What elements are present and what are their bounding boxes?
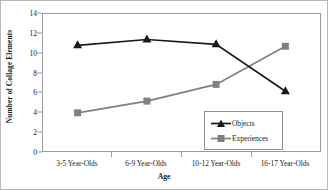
y-tick-label-10: 10: [19, 48, 37, 57]
y-tick-label-4: 4: [19, 108, 37, 117]
series-line-experiences: [78, 46, 286, 113]
y-tick-label-12: 12: [19, 28, 37, 37]
data-point-objects-3: [281, 86, 290, 94]
line-chart-figure: Number of Collage Elements 0 2 4 6 8 10 …: [0, 0, 328, 190]
data-point-experiences-2: [213, 81, 220, 88]
y-axis-title-text: Number of Collage Elements: [6, 29, 15, 122]
data-point-objects-1: [142, 35, 151, 43]
x-tick-mark-2: [181, 152, 182, 157]
data-point-experiences-0: [74, 109, 81, 116]
y-tick-label-0: 0: [19, 148, 37, 157]
legend-label-objects: Objects: [232, 119, 255, 128]
x-tick-label-6-9: 6-9 Year-Olds: [125, 159, 166, 168]
legend-item-experiences[interactable]: Experiences: [205, 131, 282, 146]
y-tick-label-6: 6: [19, 88, 37, 97]
legend-item-objects[interactable]: Objects: [205, 116, 282, 131]
legend-label-experiences: Experiences: [232, 134, 268, 143]
data-point-experiences-1: [143, 98, 150, 105]
y-tick-label-8: 8: [19, 68, 37, 77]
x-tick-label-3-5: 3-5 Year-Olds: [56, 159, 97, 168]
y-tick-label-2: 2: [19, 128, 37, 137]
x-tick-mark-3: [251, 152, 252, 157]
chart-legend: Objects Experiences: [204, 111, 283, 150]
x-tick-label-10-12: 10-12 Year-Olds: [192, 159, 241, 168]
series-line-objects: [78, 40, 286, 92]
x-tick-label-16-17: 16-17 Year-Olds: [261, 159, 310, 168]
x-tick-mark-1: [111, 152, 112, 157]
x-axis-title: Age: [1, 172, 327, 181]
y-tick-label-14: 14: [19, 9, 37, 18]
legend-marker-triangle-icon: [210, 118, 232, 129]
legend-marker-square-icon: [210, 133, 232, 144]
data-point-experiences-3: [282, 43, 289, 50]
y-axis-tick-labels: 0 2 4 6 8 10 12 14: [15, 1, 37, 190]
